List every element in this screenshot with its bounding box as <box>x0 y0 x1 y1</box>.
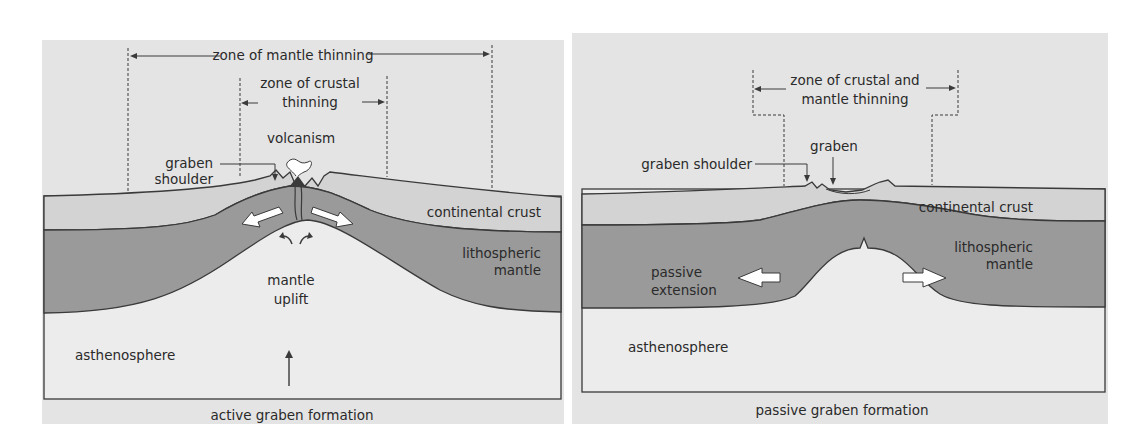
asthenosphere-label: asthenosphere <box>75 347 175 363</box>
passive-extension-label-line2: extension <box>651 282 717 298</box>
passive-lithospheric-mantle-line1: lithospheric <box>954 239 1033 255</box>
passive-zone-label-line2: mantle thinning <box>801 91 908 107</box>
passive-lithospheric-mantle-line2: mantle <box>986 256 1033 272</box>
passive-extension-label-line1: passive <box>651 264 702 280</box>
lithospheric-mantle-label-line1: lithospheric <box>462 245 541 261</box>
zone-crustal-label-line2: thinning <box>282 94 338 110</box>
zone-crustal-label-line1: zone of crustal <box>260 75 360 91</box>
zone-mantle-thinning-label: zone of mantle thinning <box>212 47 373 63</box>
passive-graben-label: graben <box>810 138 858 154</box>
passive-graben-shoulder-label: graben shoulder <box>641 156 752 172</box>
graben-formation-diagram: zone of mantle thinning zone of crustal … <box>0 0 1140 443</box>
lithospheric-mantle-label-line2: mantle <box>494 262 541 278</box>
graben-shoulder-label-line1: graben <box>165 155 213 171</box>
passive-asthenosphere-label: asthenosphere <box>628 339 728 355</box>
mantle-uplift-label-line2: uplift <box>274 291 308 307</box>
passive-caption: passive graben formation <box>756 402 929 418</box>
passive-zone-label-line1: zone of crustal and <box>790 72 919 88</box>
passive-continental-crust-label: continental crust <box>919 199 1033 215</box>
graben-shoulder-label-line2: shoulder <box>154 171 213 187</box>
volcanism-label: volcanism <box>267 130 335 146</box>
continental-crust-label: continental crust <box>427 204 541 220</box>
active-caption: active graben formation <box>210 407 373 423</box>
mantle-uplift-label-line1: mantle <box>267 272 314 288</box>
